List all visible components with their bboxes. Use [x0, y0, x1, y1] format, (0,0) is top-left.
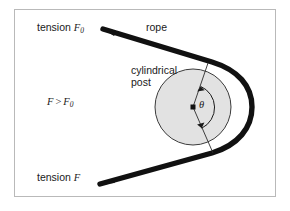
- label-tension-f0-prefix: tension: [37, 21, 74, 33]
- label-tension-f0: tension F0: [37, 22, 84, 34]
- inequality-right-subscript: 0: [70, 100, 74, 109]
- label-tension-f-symbol: F: [74, 172, 80, 183]
- label-force-inequality: F>F0: [47, 96, 74, 108]
- figure-root: tension F0 rope cylindricalpost F>F0 ten…: [0, 0, 290, 211]
- label-tension-f-prefix: tension: [37, 171, 74, 183]
- label-angle-theta: θ: [199, 99, 204, 111]
- label-rope: rope: [146, 22, 167, 34]
- inequality-right-symbol: F: [63, 96, 69, 107]
- label-cylindrical-post-line1: cylindrical: [131, 64, 177, 76]
- label-tension-f: tension F: [37, 172, 80, 184]
- label-cylindrical-post-line2: post: [131, 76, 151, 88]
- post-center-dot: [191, 105, 196, 110]
- label-cylindrical-post: cylindricalpost: [131, 65, 177, 89]
- inequality-operator: >: [53, 96, 63, 107]
- label-tension-f0-subscript: 0: [80, 26, 84, 35]
